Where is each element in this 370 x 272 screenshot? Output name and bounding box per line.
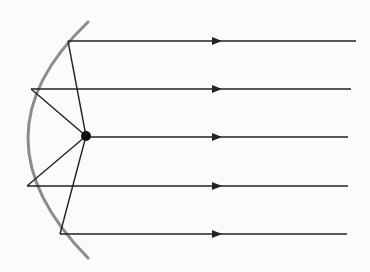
light-ray <box>86 133 348 141</box>
parabolic-mirror <box>28 22 88 258</box>
arrowhead-icon <box>212 182 222 190</box>
incident-ray <box>27 136 86 186</box>
arrowhead-icon <box>212 85 222 93</box>
light-ray <box>27 136 348 190</box>
focal-point <box>81 131 91 141</box>
incident-ray <box>60 136 86 234</box>
parabolic-mirror-diagram <box>0 0 370 272</box>
light-ray <box>31 85 351 136</box>
ray-group <box>27 37 356 238</box>
arrowhead-icon <box>212 37 222 45</box>
arrowhead-icon <box>212 230 222 238</box>
light-ray <box>60 136 347 238</box>
arrowhead-icon <box>212 133 222 141</box>
